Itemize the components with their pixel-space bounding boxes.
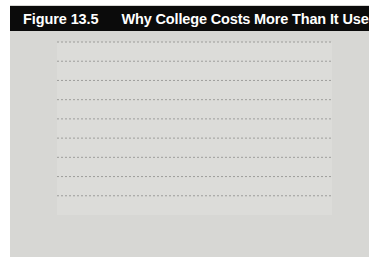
chart-area bbox=[10, 31, 369, 257]
line-chart bbox=[10, 31, 369, 257]
plot-background bbox=[57, 42, 332, 215]
figure-title-bar: Figure 13.5 Why College Costs More Than … bbox=[10, 6, 369, 31]
figure-number: Figure 13.5 bbox=[10, 11, 98, 27]
figure-title: Why College Costs More Than It Used To bbox=[109, 11, 379, 27]
figure-container: Figure 13.5 Why College Costs More Than … bbox=[0, 0, 379, 264]
